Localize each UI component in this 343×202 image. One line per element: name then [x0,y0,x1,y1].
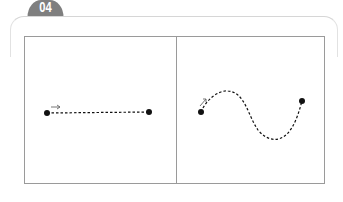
left-panel-straight-path [44,105,152,116]
start-dot-icon [198,109,204,115]
path-diagram [0,0,343,202]
straight-dashed-line [47,112,149,113]
start-dot-icon [44,110,50,116]
direction-arrow-up-right-icon [200,99,206,106]
right-panel-curved-path [198,91,305,139]
direction-arrow-right-icon [51,105,60,109]
curved-dashed-line [201,91,302,139]
end-dot-icon [299,98,305,104]
end-dot-icon [146,109,152,115]
